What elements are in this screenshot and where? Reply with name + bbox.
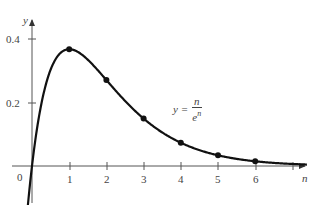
data-point: [103, 77, 109, 83]
data-points: [66, 46, 258, 164]
y-tick-label-0.2: 0.2: [6, 98, 20, 109]
x-tick-label-4: 4: [178, 174, 184, 185]
y-axis-label: y: [23, 15, 28, 26]
formula-fraction: n en: [192, 96, 202, 123]
data-point: [178, 140, 184, 146]
function-annotation: y = n en: [173, 96, 202, 123]
data-point: [66, 46, 72, 52]
y-tick-label-0.4: 0.4: [6, 34, 20, 45]
formula-denominator: en: [192, 108, 201, 123]
x-tick-label-6: 6: [253, 174, 259, 185]
x-axis-label: n: [302, 173, 308, 184]
formula-lhs: y =: [173, 103, 188, 115]
data-point: [141, 116, 147, 122]
x-tick-label-5: 5: [215, 174, 221, 185]
origin-label: 0: [17, 172, 23, 183]
x-tick-label-1: 1: [67, 174, 73, 185]
x-tick-label-3: 3: [141, 174, 147, 185]
data-point: [252, 158, 258, 164]
data-point: [215, 152, 221, 158]
formula-numerator: n: [192, 96, 202, 108]
x-tick-label-2: 2: [104, 174, 110, 185]
chart-canvas: [0, 0, 322, 219]
